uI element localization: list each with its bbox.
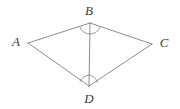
- segment-bd-diagonal: [89, 23, 90, 86]
- angle-arc-abd: [80, 26, 90, 34]
- geometry-diagram-svg: A B C D: [0, 0, 180, 109]
- vertex-label-d: D: [83, 91, 94, 106]
- segment-ab: [28, 23, 90, 43]
- segment-bc: [90, 23, 152, 44]
- vertex-label-c: C: [160, 35, 169, 50]
- segment-cd: [89, 44, 152, 86]
- vertex-label-a: A: [11, 34, 20, 49]
- vertex-label-b: B: [85, 3, 93, 18]
- geometry-figure: A B C D: [0, 0, 180, 109]
- angle-arc-cbd: [90, 27, 100, 35]
- segment-da: [28, 43, 89, 86]
